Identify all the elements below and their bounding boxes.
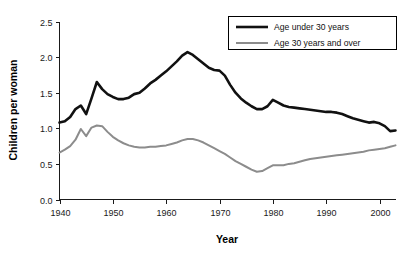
x-tick-label: 1980	[263, 208, 283, 218]
x-axis: 1940195019601970198019902000	[50, 200, 395, 218]
x-tick-label: 2000	[370, 208, 390, 218]
series-line-0	[60, 52, 396, 131]
x-tick-label: 1990	[316, 208, 336, 218]
data-series-layer	[60, 52, 396, 172]
series-line-1	[60, 125, 396, 171]
chart-legend: Age under 30 yearsAge 30 years and over	[229, 17, 397, 50]
y-axis-title: Children per woman	[7, 60, 19, 161]
legend-label-0: Age under 30 years	[274, 22, 349, 32]
x-axis-ticks: 1940195019601970198019902000	[50, 200, 390, 218]
x-tick-label: 1970	[210, 208, 230, 218]
x-tick-label: 1940	[50, 208, 70, 218]
y-axis: 0.00.51.01.52.02.5	[40, 18, 60, 206]
chart-canvas: 0.00.51.01.52.02.5 194019501960197019801…	[0, 0, 408, 253]
y-tick-label: 0.5	[40, 160, 53, 170]
y-tick-label: 0.0	[40, 196, 53, 206]
y-tick-label: 1.0	[40, 124, 53, 134]
y-tick-label: 1.5	[40, 89, 53, 99]
y-tick-label: 2.5	[40, 18, 53, 28]
legend-label-1: Age 30 years and over	[274, 38, 361, 48]
x-tick-label: 1950	[103, 208, 123, 218]
y-tick-label: 2.0	[40, 53, 53, 63]
y-axis-ticks: 0.00.51.01.52.02.5	[40, 18, 60, 206]
x-axis-title: Year	[216, 233, 238, 245]
x-tick-label: 1960	[156, 208, 176, 218]
figure-fertility-by-age: 0.00.51.01.52.02.5 194019501960197019801…	[0, 0, 408, 253]
